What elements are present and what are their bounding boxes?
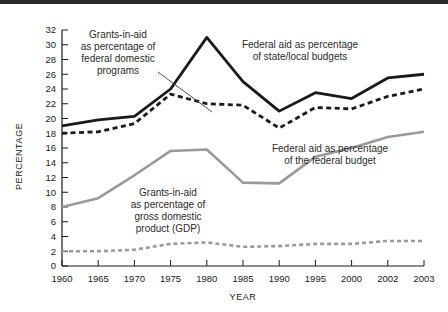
line-chart: 02468101214161820222426283032 1960196519… — [0, 0, 448, 312]
x-tick-label: 1970 — [124, 273, 145, 284]
y-tick-label: 20 — [45, 113, 56, 124]
annotation-line: product (GDP) — [136, 223, 200, 234]
x-tick-label: 1980 — [196, 273, 217, 284]
x-tick-label: 1975 — [160, 273, 181, 284]
annotation-federal-aid-federal-budget: Federal aid as percentageof the federal … — [272, 143, 389, 166]
annotation-line: as percentage of — [81, 41, 156, 52]
annotation-line: as percentage of — [131, 199, 206, 210]
y-tick-label: 12 — [45, 172, 56, 183]
annotation-line: federal domestic — [81, 53, 154, 64]
annotation-line: Federal aid as percentage — [242, 39, 359, 50]
x-tick-label: 2000 — [341, 273, 362, 284]
y-tick-label: 2 — [51, 246, 56, 257]
annotation-line: of state/local budgets — [253, 51, 348, 62]
x-tick-label: 2003 — [413, 273, 434, 284]
annotation-line: Grants-in-aid — [139, 187, 197, 198]
x-axis-ticks: 1960196519701975198019851990199520002002… — [51, 260, 434, 284]
annotation-line: Federal aid as percentage — [272, 143, 389, 154]
y-axis-ticks: 02468101214161820222426283032 — [45, 24, 68, 271]
x-axis-title: YEAR — [230, 292, 257, 302]
y-tick-label: 32 — [45, 24, 56, 35]
y-tick-label: 28 — [45, 54, 56, 65]
y-tick-label: 26 — [45, 69, 56, 80]
series-line-1 — [62, 89, 424, 133]
x-tick-label: 1965 — [88, 273, 109, 284]
annotation-grants-federal-domestic: Grants-in-aidas percentage offederal dom… — [81, 29, 156, 76]
y-tick-label: 30 — [45, 39, 56, 50]
y-tick-label: 10 — [45, 187, 56, 198]
y-tick-label: 14 — [45, 157, 56, 168]
annotation-layer: Grants-in-aidas percentage offederal dom… — [81, 29, 389, 234]
y-tick-label: 0 — [51, 260, 56, 271]
y-tick-label: 8 — [51, 201, 56, 212]
annotation-line: programs — [97, 65, 139, 76]
x-tick-label: 1995 — [305, 273, 326, 284]
annotation-line: Grants-in-aid — [89, 29, 147, 40]
y-axis-title: PERCENTAGE — [14, 123, 24, 190]
y-tick-label: 4 — [51, 231, 56, 242]
chart-figure: 02468101214161820222426283032 1960196519… — [0, 0, 448, 312]
x-tick-label: 2002 — [377, 273, 398, 284]
y-tick-label: 22 — [45, 98, 56, 109]
y-tick-label: 6 — [51, 216, 56, 227]
x-tick-label: 1960 — [51, 273, 72, 284]
annotation-line: of the federal budget — [284, 155, 376, 166]
y-tick-label: 16 — [45, 142, 56, 153]
x-tick-label: 1985 — [232, 273, 253, 284]
series-line-3 — [62, 241, 424, 251]
annotation-line: gross domestic — [134, 211, 201, 222]
y-tick-label: 18 — [45, 128, 56, 139]
annotation-grants-gdp: Grants-in-aidas percentage ofgross domes… — [131, 187, 206, 234]
x-tick-label: 1990 — [269, 273, 290, 284]
annotation-federal-aid-state-local: Federal aid as percentageof state/local … — [242, 39, 359, 62]
y-tick-label: 24 — [45, 83, 56, 94]
